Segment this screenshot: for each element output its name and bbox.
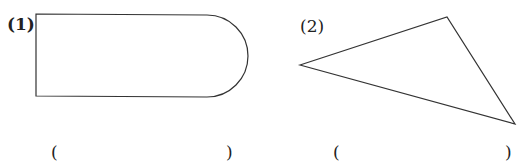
figure-2-triangle — [300, 17, 515, 124]
answer-2-close-paren: ) — [505, 142, 512, 162]
figures-canvas — [0, 0, 520, 168]
answer-1-open-paren: ( — [51, 142, 58, 162]
figure-1-shape — [36, 14, 248, 97]
figure-2-label: (2) — [300, 16, 324, 36]
answer-1-close-paren: ) — [226, 142, 233, 162]
figure-1-label: (1) — [7, 14, 35, 34]
answer-2-open-paren: ( — [333, 142, 340, 162]
